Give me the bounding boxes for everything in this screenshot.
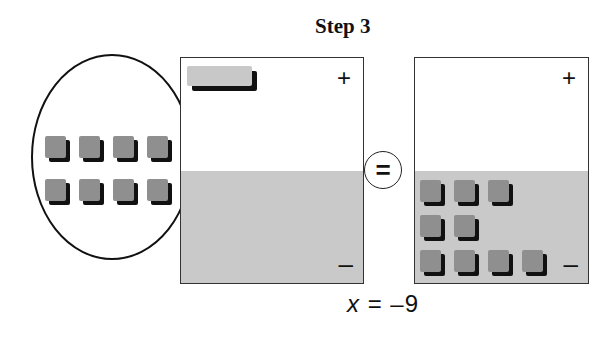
- negative-unit-tile: [488, 250, 509, 272]
- solution-equals: =: [368, 290, 383, 317]
- negative-unit-tile: [45, 179, 66, 201]
- negative-unit-tile: [113, 179, 134, 201]
- minus-sign: –: [564, 251, 578, 277]
- minus-sign: –: [339, 251, 353, 277]
- negative-unit-tile: [79, 136, 100, 158]
- negative-unit-tile: [420, 180, 441, 202]
- negative-unit-tile: [420, 215, 441, 237]
- negative-region: –: [415, 171, 588, 283]
- solution-equation: x = –9: [347, 290, 419, 318]
- solution-value: –9: [390, 290, 419, 317]
- negative-unit-tile: [147, 179, 168, 201]
- negative-unit-tile: [113, 136, 134, 158]
- negative-unit-tile: [420, 250, 441, 272]
- negative-unit-tile: [45, 136, 66, 158]
- negative-region: –: [181, 171, 363, 283]
- negative-unit-tile: [522, 250, 543, 272]
- equals-circle: =: [364, 151, 402, 189]
- right-equation-mat: + –: [414, 57, 589, 284]
- positive-region: +: [415, 58, 588, 172]
- solution-variable: x: [347, 290, 360, 317]
- plus-sign: +: [337, 66, 351, 90]
- left-equation-mat: + –: [180, 57, 364, 284]
- positive-region: +: [181, 58, 363, 172]
- negative-unit-tile: [147, 136, 168, 158]
- negative-unit-tile: [454, 250, 475, 272]
- equals-symbol: =: [375, 155, 390, 186]
- negative-unit-tile: [488, 180, 509, 202]
- negative-unit-tile: [454, 180, 475, 202]
- negative-unit-tile: [79, 179, 100, 201]
- negative-unit-tile: [454, 215, 475, 237]
- positive-x-tile: [187, 66, 252, 86]
- plus-sign: +: [562, 66, 576, 90]
